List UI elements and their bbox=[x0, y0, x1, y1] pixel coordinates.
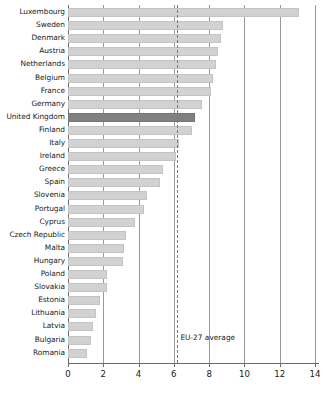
x-tick-label: 8 bbox=[206, 369, 211, 379]
category-label: Ireland bbox=[1, 151, 65, 161]
bar bbox=[68, 205, 144, 214]
x-tick-label: 10 bbox=[239, 369, 250, 379]
category-label: Poland bbox=[1, 269, 65, 279]
category-label: Slovenia bbox=[1, 190, 65, 200]
category-label: France bbox=[1, 86, 65, 96]
category-label: Hungary bbox=[1, 256, 65, 266]
bar bbox=[68, 113, 195, 122]
x-tick-label: 0 bbox=[65, 369, 70, 379]
category-label: Luxembourg bbox=[1, 7, 65, 17]
x-tick-label: 2 bbox=[101, 369, 106, 379]
x-tick bbox=[209, 364, 210, 367]
x-tick bbox=[280, 364, 281, 367]
bar bbox=[68, 322, 93, 331]
bar bbox=[68, 296, 100, 305]
category-label: Belgium bbox=[1, 73, 65, 83]
bar bbox=[68, 270, 107, 279]
bar bbox=[68, 152, 176, 161]
category-label: Czech Republic bbox=[1, 230, 65, 240]
x-tick bbox=[68, 364, 69, 367]
category-label: Denmark bbox=[1, 33, 65, 43]
category-label: Romania bbox=[1, 348, 65, 358]
bar bbox=[68, 60, 216, 69]
eu-27-average-line bbox=[177, 5, 178, 363]
category-label: United Kingdom bbox=[1, 112, 65, 122]
bar bbox=[68, 178, 160, 187]
category-axis-labels: LuxembourgSwedenDenmarkAustriaNetherland… bbox=[0, 0, 68, 363]
plot-area: EU-27 average bbox=[68, 0, 319, 363]
bar bbox=[68, 87, 211, 96]
bar bbox=[68, 100, 202, 109]
gridline bbox=[209, 5, 210, 363]
bar bbox=[68, 165, 163, 174]
bar bbox=[68, 126, 192, 135]
category-label: Germany bbox=[1, 99, 65, 109]
x-axis-line bbox=[68, 363, 319, 364]
bar bbox=[68, 21, 223, 30]
category-label: Portugal bbox=[1, 204, 65, 214]
x-tick-label: 12 bbox=[274, 369, 285, 379]
category-label: Slovakia bbox=[1, 282, 65, 292]
category-label: Sweden bbox=[1, 20, 65, 30]
bar-chart: LuxembourgSwedenDenmarkAustriaNetherland… bbox=[0, 0, 323, 397]
x-tick-label: 6 bbox=[171, 369, 176, 379]
gridline bbox=[315, 5, 316, 363]
gridline bbox=[174, 5, 175, 363]
bar bbox=[68, 139, 179, 148]
category-label: Latvia bbox=[1, 321, 65, 331]
bar bbox=[68, 74, 213, 83]
category-label: Austria bbox=[1, 46, 65, 56]
bar bbox=[68, 34, 221, 43]
category-label: Netherlands bbox=[1, 59, 65, 69]
category-label: Estonia bbox=[1, 295, 65, 305]
category-label: Spain bbox=[1, 177, 65, 187]
x-axis: 02468101214 bbox=[68, 363, 319, 397]
bar bbox=[68, 191, 147, 200]
category-label: Cyprus bbox=[1, 217, 65, 227]
category-label: Greece bbox=[1, 164, 65, 174]
gridline bbox=[280, 5, 281, 363]
eu-27-average-label: EU-27 average bbox=[180, 333, 235, 342]
bar bbox=[68, 244, 124, 253]
bar bbox=[68, 231, 126, 240]
x-tick bbox=[139, 364, 140, 367]
category-label: Lithuania bbox=[1, 308, 65, 318]
bar bbox=[68, 47, 218, 56]
category-label: Bulgaria bbox=[1, 335, 65, 345]
bar bbox=[68, 257, 123, 266]
bar bbox=[68, 283, 107, 292]
x-tick bbox=[174, 364, 175, 367]
category-label: Finland bbox=[1, 125, 65, 135]
x-tick bbox=[244, 364, 245, 367]
x-tick bbox=[315, 364, 316, 367]
x-tick bbox=[103, 364, 104, 367]
bar bbox=[68, 218, 135, 227]
bar bbox=[68, 8, 299, 17]
x-tick-label: 4 bbox=[136, 369, 141, 379]
x-tick-label: 14 bbox=[310, 369, 321, 379]
category-label: Italy bbox=[1, 138, 65, 148]
category-label: Malta bbox=[1, 243, 65, 253]
bar bbox=[68, 309, 96, 318]
gridline bbox=[244, 5, 245, 363]
bar bbox=[68, 349, 87, 358]
bar bbox=[68, 336, 91, 345]
